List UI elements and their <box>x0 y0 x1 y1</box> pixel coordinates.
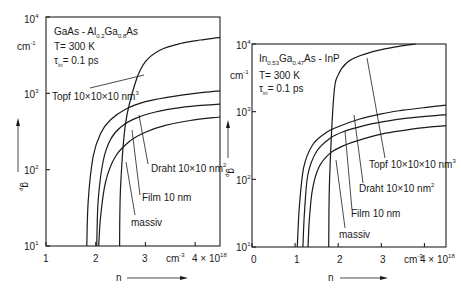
right-ytick-1: 101 <box>236 241 251 253</box>
right-ptr-draht <box>354 115 363 183</box>
right-y-arrowhead <box>226 120 230 128</box>
left-ptr-draht <box>139 115 148 164</box>
left-annot-draht: Draht 10×10 nm2 <box>151 162 227 174</box>
right-annot-draht: Draht 10×10 nm2 <box>359 182 435 194</box>
right-xtick-4: 4 × 1018 <box>420 253 455 265</box>
figure: 101 102 103 104 cm-1 1 2 3 cm-3 4 × 1018… <box>0 0 461 294</box>
right-material: In0.53Ga0.47As - InP <box>259 53 340 66</box>
right-xtick-3: 3 <box>380 254 386 265</box>
right-y-unit: cm-1 <box>230 69 249 81</box>
left-ptr-massiv <box>126 162 135 215</box>
right-ptr-topf <box>367 58 385 158</box>
right-xtick-1: 1 <box>294 254 300 265</box>
svg-text:gp: gp <box>19 182 31 192</box>
left-xlabel: n <box>116 272 122 283</box>
left-annot-topf: Topf 10×10×10 nm3 <box>52 90 139 102</box>
right-curve-draht <box>297 105 446 247</box>
left-temperature: T= 300 K <box>54 41 95 52</box>
right-annot-massiv: massiv <box>339 229 370 240</box>
right-ytick-2: 102 <box>236 174 251 186</box>
left-y-unit: cm-1 <box>17 40 36 52</box>
right-ytick-4: 104 <box>236 39 251 51</box>
left-annot-film: Film 10 nm <box>142 192 191 203</box>
left-ylabel: gp <box>19 182 31 192</box>
left-ytick-3: 103 <box>24 88 39 100</box>
right-xtick-2: 2 <box>337 254 343 265</box>
left-ytick-4: 104 <box>24 13 39 25</box>
right-xtick-0: 0 <box>251 254 257 265</box>
left-curves <box>87 37 220 246</box>
right-xlabel: n <box>328 272 334 283</box>
right-tau: τin= 0.1 ps <box>259 83 303 96</box>
left-xtick-2: 2 <box>93 253 99 264</box>
left-annot-massiv: massiv <box>131 217 162 228</box>
right-annot-topf: Topf 10×10×10 nm3 <box>369 158 456 170</box>
left-tau: τin= 0.1 ps <box>54 55 98 68</box>
left-x-unit: cm-3 <box>166 252 185 264</box>
right-ytick-3: 103 <box>236 106 251 118</box>
right-x-arrowhead <box>380 276 388 280</box>
left-x-arrowhead <box>180 276 188 280</box>
left-y-arrowhead <box>16 118 20 126</box>
left-ptr-film <box>132 130 140 195</box>
left-panel: 101 102 103 104 cm-1 1 2 3 cm-3 4 × 1018… <box>16 13 227 283</box>
right-curve-film <box>303 115 446 247</box>
left-ytick-2: 102 <box>24 164 39 176</box>
right-ptr-massiv <box>336 160 345 228</box>
right-panel: 101 102 103 104 cm-1 0 1 2 3 cm-3 4 × 10… <box>225 39 456 283</box>
left-xtick-3: 3 <box>142 253 148 264</box>
left-xtick-1: 1 <box>43 253 49 264</box>
left-ytick-1: 101 <box>24 240 39 252</box>
left-xtick-4: 4 × 1018 <box>192 252 227 264</box>
right-annot-film: Film 10 nm <box>351 208 400 219</box>
left-material: GaAs - Al0.2Ga0.8As <box>54 26 138 39</box>
right-temperature: T= 300 K <box>259 70 300 81</box>
